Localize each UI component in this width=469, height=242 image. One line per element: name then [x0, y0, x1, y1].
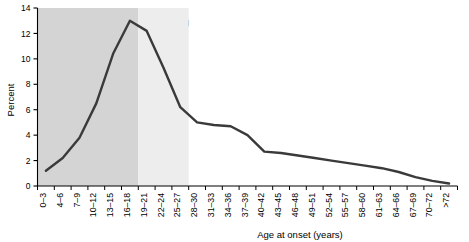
x-tick-label: 10–12: [88, 193, 98, 217]
chart-figure: Child onset Young adult onset 0246810121…: [0, 0, 469, 242]
young-adult-onset-band: [138, 8, 188, 186]
y-tick-label: 4: [26, 130, 31, 140]
line-chart-svg: 02468101214 0–34–67–910–1213–1516–1819–2…: [0, 0, 469, 242]
x-tick-label: 7–9: [72, 193, 82, 208]
x-tick-label: 0–3: [38, 193, 48, 208]
x-tick-label: 70–72: [424, 193, 434, 217]
x-tick-label: 34–36: [223, 193, 233, 217]
y-axis-title: Percent: [5, 83, 16, 116]
x-tick-label: 58–60: [357, 193, 367, 217]
x-axis-tick-labels: 0–34–67–910–1213–1516–1819–2122–2425–272…: [38, 193, 451, 217]
y-axis-tick-labels: 02468101214: [21, 3, 31, 191]
y-tick-label: 0: [26, 181, 31, 191]
x-axis-ticks-group: [38, 186, 458, 190]
x-tick-label: 40–42: [256, 193, 266, 217]
x-tick-label: 37–39: [240, 193, 250, 217]
x-tick-label: 13–15: [105, 193, 115, 217]
x-tick-label: 16–18: [122, 193, 132, 217]
x-tick-label: 22–24: [156, 193, 166, 217]
y-tick-label: 8: [26, 79, 31, 89]
x-tick-label: 46–48: [290, 193, 300, 217]
y-tick-label: 14: [21, 3, 31, 13]
x-tick-label: 49–51: [307, 193, 317, 217]
y-axis-ticks-group: [34, 8, 38, 186]
y-tick-label: 12: [21, 29, 31, 39]
x-tick-label: 64–66: [391, 193, 401, 217]
x-tick-label: 31–33: [206, 193, 216, 217]
x-tick-label: 43–45: [273, 193, 283, 217]
x-tick-label: 19–21: [139, 193, 149, 217]
x-tick-label: 28–30: [189, 193, 199, 217]
x-tick-label: 67–69: [408, 193, 418, 217]
y-tick-label: 2: [26, 156, 31, 166]
x-tick-label: 55–57: [340, 193, 350, 217]
x-tick-label: 61–63: [374, 193, 384, 217]
x-tick-label: 25–27: [172, 193, 182, 217]
x-tick-label: 52–54: [324, 193, 334, 217]
y-tick-label: 6: [26, 105, 31, 115]
x-tick-label: >72: [441, 193, 451, 208]
y-tick-label: 10: [21, 54, 31, 64]
x-axis-title: Age at onset (years): [257, 229, 343, 240]
x-tick-label: 4–6: [55, 193, 65, 208]
